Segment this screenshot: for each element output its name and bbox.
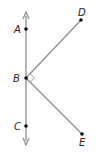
label-b: B bbox=[13, 73, 20, 84]
point-e bbox=[80, 132, 84, 136]
label-e: E bbox=[79, 137, 86, 148]
point-a bbox=[24, 27, 28, 31]
label-a: A bbox=[13, 24, 21, 35]
segment-be bbox=[26, 78, 82, 134]
point-c bbox=[24, 124, 28, 128]
point-b bbox=[24, 76, 28, 80]
point-d bbox=[79, 18, 83, 22]
label-c: C bbox=[14, 121, 21, 132]
segment-bd bbox=[26, 20, 81, 78]
right-angle-mark bbox=[30, 74, 34, 83]
label-d: D bbox=[78, 7, 86, 18]
geometry-diagram: A B C D E bbox=[0, 0, 98, 153]
